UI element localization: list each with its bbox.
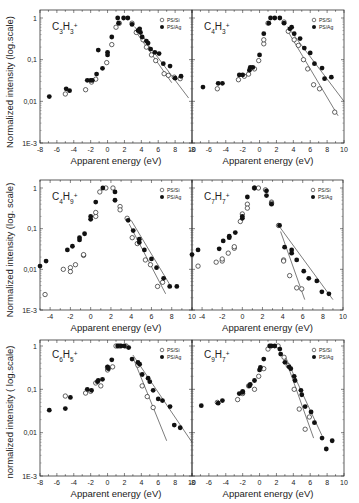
x-tick-label: 8 [173, 479, 177, 486]
x-tick-label: -2 [88, 479, 94, 486]
y-tick-label: 0,1 [27, 225, 37, 232]
x-tick-label: -8 [37, 479, 43, 486]
x-tick-label: -4 [223, 479, 229, 486]
x-tick-label: -2 [240, 146, 246, 153]
y-tick-label: 0,01 [23, 429, 37, 436]
x-tick-label: 0 [258, 146, 262, 153]
x-axis-label: Apparent energy (eV) [71, 155, 162, 166]
y-tick-label: 0,01 [23, 98, 37, 105]
y-axis-label-bottom-row: normalized intensity ( log.scale) [4, 345, 15, 478]
x-tick-label: 6 [308, 146, 312, 153]
y-axis-label: Normalized intensity (log.scale) [4, 16, 15, 148]
panels: -8-6-4-202468101E-30,010,11Apparent ener… [22, 10, 348, 499]
chart-panel-bottom-right: -8-6-4-20246810Apparent energy (eV)C9H7+… [189, 340, 348, 499]
x-tick-label: -6 [54, 479, 60, 486]
x-tick-label: 4 [139, 479, 143, 486]
x-tick-label: 8 [325, 479, 329, 486]
legend-label: PS/Si [167, 347, 180, 353]
x-tick-label: 8 [325, 146, 329, 153]
x-tick-label: -6 [206, 146, 212, 153]
ion-label: C3H3+ [52, 21, 78, 35]
y-axis-label-top-row: Normalized intensity (log.scale) [4, 16, 15, 148]
chart-panel-middle-left: -4-202468101E-30,010,11Apparent energy (… [22, 180, 196, 333]
legend: PS/SiPS/Ag [312, 347, 333, 360]
ion-label: C7H7+ [204, 191, 230, 205]
x-tick-label: 4 [281, 313, 285, 320]
x-tick-label: 6 [156, 146, 160, 153]
x-tick-label: 4 [291, 479, 295, 486]
x-tick-label: 0 [258, 479, 262, 486]
x-tick-label: 8 [170, 313, 174, 320]
x-tick-label: -4 [199, 313, 205, 320]
x-tick-label: 10 [340, 479, 348, 486]
legend: PS/SiPS/Ag [160, 347, 181, 360]
x-tick-label: 4 [129, 313, 133, 320]
x-tick-label: 6 [150, 313, 154, 320]
x-tick-label: -2 [240, 479, 246, 486]
legend-label: PS/Ag [167, 354, 181, 360]
x-tick-label: 0 [106, 479, 110, 486]
x-tick-label: 2 [122, 479, 126, 486]
y-tick-label: 1E-3 [22, 307, 37, 314]
x-tick-label: -8 [37, 146, 43, 153]
y-tick-label: 0,1 [27, 386, 37, 393]
legend-label: PS/Si [167, 17, 180, 23]
x-tick-label: 6 [301, 313, 305, 320]
y-tick-label: 1 [33, 343, 37, 350]
y-tick-label: 1E-3 [22, 473, 37, 480]
ion-label: C6H5+ [52, 349, 78, 363]
fit-line [287, 31, 338, 116]
x-tick-label: 0 [106, 146, 110, 153]
x-tick-label: 0 [240, 313, 244, 320]
legend-label: PS/Ag [167, 24, 181, 30]
x-tick-label: 2 [109, 313, 113, 320]
x-tick-label: 2 [261, 313, 265, 320]
x-tick-label: -8 [189, 146, 195, 153]
x-tick-label: -4 [71, 479, 77, 486]
x-tick-label: -2 [219, 313, 225, 320]
ion-label: C4H9+ [52, 191, 78, 205]
x-tick-label: 10 [188, 313, 196, 320]
y-axis-label: Normalized intensity (log. scale) [4, 183, 15, 318]
x-tick-label: 2 [274, 146, 278, 153]
x-axis-label: Apparent energy (eV) [71, 322, 162, 333]
y-tick-label: 1 [33, 15, 37, 22]
x-tick-label: -6 [206, 479, 212, 486]
series-ps-si [215, 20, 337, 115]
x-tick-label: 4 [139, 146, 143, 153]
y-tick-label: 0,01 [23, 266, 37, 273]
chart-panel-bottom-left: -8-6-4-202468101E-30,010,11Apparent ener… [22, 340, 196, 499]
legend-label: PS/Ag [319, 354, 333, 360]
chart-panel-middle-right: -4-20246810Apparent energy (eV)C7H7+PS/S… [190, 180, 347, 333]
legend-label: PS/Si [318, 187, 331, 193]
ion-label: C4H3+ [204, 21, 230, 35]
x-tick-label: 6 [308, 479, 312, 486]
legend: PS/SiPS/Ag [311, 187, 332, 200]
chart-panel-top-right: -8-6-4-20246810Apparent energy (eV)C4H3+… [189, 10, 348, 166]
y-axis-label-middle-row: Normalized intensity (log. scale) [4, 183, 15, 318]
x-tick-label: -6 [54, 146, 60, 153]
x-tick-label: -4 [71, 146, 77, 153]
legend: PS/SiPS/Ag [312, 17, 333, 30]
series-ps-si [63, 21, 182, 96]
legend-label: PS/Si [319, 347, 332, 353]
y-axis-label: normalized intensity ( log.scale) [4, 345, 15, 478]
x-tick-label: -4 [47, 313, 53, 320]
x-tick-label: 8 [321, 313, 325, 320]
x-tick-label: 2 [122, 146, 126, 153]
fit-line [279, 225, 333, 299]
chart-panel-top-left: -8-6-4-202468101E-30,010,11Apparent ener… [22, 10, 196, 166]
x-axis-label: Apparent energy (eV) [223, 155, 314, 166]
x-axis-label: Apparent energy (eV) [223, 488, 314, 499]
x-tick-label: -8 [189, 479, 195, 486]
x-tick-label: -2 [88, 146, 94, 153]
x-tick-label: 8 [173, 146, 177, 153]
y-tick-label: 0,1 [27, 56, 37, 63]
legend-label: PS/Ag [318, 194, 332, 200]
x-tick-label: 0 [89, 313, 93, 320]
legend-label: PS/Si [319, 17, 332, 23]
figure: -8-6-4-202468101E-30,010,11Apparent ener… [0, 0, 359, 503]
legend-label: PS/Ag [167, 194, 181, 200]
x-tick-label: 6 [156, 479, 160, 486]
x-tick-label: 10 [339, 313, 347, 320]
